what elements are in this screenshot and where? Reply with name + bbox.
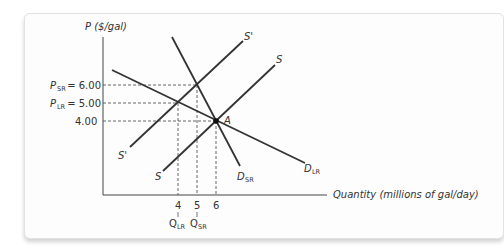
s-prime-top-label: S' bbox=[244, 31, 253, 42]
svg-text:Q: Q bbox=[169, 218, 177, 229]
q-lr-label: Q LR bbox=[169, 218, 186, 231]
d-lr-label: D LR bbox=[304, 163, 321, 176]
svg-text:= 6.00: = 6.00 bbox=[64, 80, 101, 91]
point-a-label: A bbox=[223, 115, 231, 126]
x-tick-5: 5 bbox=[194, 200, 200, 211]
d-sr-label: D SR bbox=[237, 171, 254, 184]
x-tick-6: 6 bbox=[213, 200, 219, 211]
svg-text:P: P bbox=[50, 98, 57, 109]
svg-text:SR: SR bbox=[245, 176, 254, 184]
supply-prime-line bbox=[130, 41, 243, 147]
svg-text:D: D bbox=[304, 163, 312, 174]
y-tick-4: 4.00 bbox=[75, 116, 97, 127]
x-axis-label: Quantity (millions of gal/day) bbox=[333, 189, 479, 200]
y-axis-label: P ($/gal) bbox=[85, 21, 127, 32]
demand-long-run-line bbox=[112, 70, 305, 163]
svg-text:LR: LR bbox=[177, 223, 186, 231]
equilibrium-point-a bbox=[213, 118, 219, 124]
supply-line bbox=[163, 65, 275, 171]
x-tick-4: 4 bbox=[175, 200, 181, 211]
s-bottom-label: S bbox=[155, 171, 162, 182]
svg-text:Q: Q bbox=[190, 218, 198, 229]
svg-text:LR: LR bbox=[312, 168, 321, 176]
q-sr-label: Q SR bbox=[190, 218, 207, 231]
y-tick-5: P LR = 5.00 bbox=[50, 98, 101, 111]
s-prime-bottom-label: S' bbox=[118, 150, 127, 161]
demand-short-run-line bbox=[172, 37, 240, 166]
s-top-label: S bbox=[276, 54, 283, 65]
svg-text:SR: SR bbox=[198, 223, 207, 231]
y-tick-6: P SR = 6.00 bbox=[50, 80, 101, 93]
svg-text:P: P bbox=[50, 80, 57, 91]
svg-text:= 5.00: = 5.00 bbox=[64, 98, 101, 109]
svg-text:D: D bbox=[237, 171, 245, 182]
